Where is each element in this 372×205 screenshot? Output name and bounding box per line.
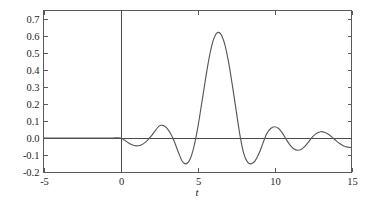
y-tick-label: 0.6	[26, 31, 39, 42]
y-tick-label: 0.3	[26, 82, 39, 93]
x-tick-label: 10	[270, 176, 281, 187]
y-tick-label: -0.2	[23, 167, 40, 178]
y-tick-label: 0.2	[26, 99, 39, 110]
chart-figure: -0.2-0.10.00.10.20.30.40.50.60.7 -505101…	[0, 0, 372, 205]
chart-background	[0, 0, 372, 205]
y-tick-label: 0.1	[26, 116, 39, 127]
y-tick-label: 0.4	[26, 65, 40, 76]
x-tick-label: 0	[119, 176, 124, 187]
line-chart: -0.2-0.10.00.10.20.30.40.50.60.7 -505101…	[0, 0, 372, 205]
x-tick-label: -5	[40, 176, 49, 187]
y-tick-label: 0.7	[26, 14, 39, 25]
x-tick-label: 15	[347, 176, 358, 187]
y-tick-label: 0.0	[26, 133, 39, 144]
y-tick-label: 0.5	[26, 48, 39, 59]
y-tick-label: -0.1	[23, 150, 40, 161]
